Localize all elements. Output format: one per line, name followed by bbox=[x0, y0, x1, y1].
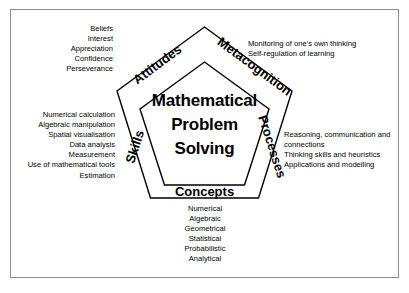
list-item: Beliefs bbox=[66, 24, 113, 34]
list-item: Applications and modelling bbox=[284, 160, 406, 170]
list-item: Measurement bbox=[28, 150, 115, 160]
list-item: Algebraic manipulation bbox=[28, 120, 115, 130]
concepts-list: Numerical Algebraic Geometrical Statisti… bbox=[155, 204, 255, 265]
list-item: Numerical bbox=[155, 204, 255, 214]
edge-label-concepts: Concepts bbox=[175, 184, 234, 199]
list-item: Geometrical bbox=[155, 224, 255, 234]
list-item: Numerical calculation bbox=[28, 110, 115, 120]
skills-list: Numerical calculation Algebraic manipula… bbox=[28, 110, 115, 181]
list-item: Perseverance bbox=[66, 64, 113, 74]
list-item: Self-regulation of learning bbox=[248, 49, 356, 59]
list-item: Statistical bbox=[155, 234, 255, 244]
list-item: Monitoring of one's own thinking bbox=[248, 39, 356, 49]
core-line-1: Mathematical bbox=[152, 91, 257, 110]
list-item: Estimation bbox=[28, 171, 115, 181]
list-item: Confidence bbox=[66, 54, 113, 64]
metacognition-list: Monitoring of one's own thinking Self-re… bbox=[248, 39, 356, 59]
list-item: Algebraic bbox=[155, 214, 255, 224]
core-line-2: Problem bbox=[171, 115, 238, 134]
core-line-3: Solving bbox=[175, 139, 235, 158]
list-item: Appreciation bbox=[66, 44, 113, 54]
list-item: Analytical bbox=[155, 254, 255, 264]
attitudes-list: Beliefs Interest Appreciation Confidence… bbox=[66, 24, 113, 74]
list-item: Spatial visualisation bbox=[28, 130, 115, 140]
list-item: Interest bbox=[66, 34, 113, 44]
list-item: Thinking skills and heuristics bbox=[284, 150, 406, 160]
list-item: Use of mathematical tools bbox=[28, 160, 115, 170]
list-item: Reasoning, communication and connections bbox=[284, 130, 406, 150]
list-item: Data analysis bbox=[28, 140, 115, 150]
figure-container: Mathematical Problem Solving Attitudes M… bbox=[0, 0, 409, 293]
processes-list: Reasoning, communication and connections… bbox=[284, 130, 406, 170]
list-item: Probabilistic bbox=[155, 244, 255, 254]
